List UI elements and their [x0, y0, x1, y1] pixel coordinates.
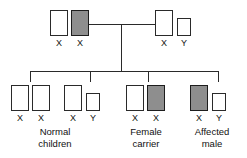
caption-normal-children-line1: Normal	[10, 126, 100, 138]
mother-chromosome-x2-shaded	[71, 10, 89, 36]
child-2-chromosome-y	[86, 93, 100, 111]
father-chromosome-x	[155, 10, 173, 36]
mother-allele-x2-label: X	[71, 38, 89, 48]
child-3-allele-x2-label: X	[147, 113, 165, 123]
child-4-allele-y-label: Y	[212, 113, 226, 123]
mother-allele-x1-label: X	[50, 38, 68, 48]
child-3-chromosome-x1	[126, 85, 144, 111]
child-4-chromosome-y	[212, 93, 226, 111]
child-2-allele-x-label: X	[64, 113, 82, 123]
sibship-drop-child-3	[148, 71, 149, 82]
child-2-chromosome-x	[64, 85, 82, 111]
child-1-allele-x1-label: X	[11, 113, 29, 123]
child-1-chromosome-x2	[32, 85, 50, 111]
child-1-allele-x2-label: X	[32, 113, 50, 123]
caption-affected-male: Affected male	[180, 126, 244, 149]
child-3-chromosome-x2-shaded	[147, 85, 165, 111]
child-1-chromosome-x1	[11, 85, 29, 111]
child-2-allele-y-label: Y	[86, 113, 100, 123]
sibship-drop-child-4	[218, 71, 219, 82]
child-4-chromosome-x-shaded	[190, 85, 208, 111]
child-3-allele-x1-label: X	[126, 113, 144, 123]
father-allele-x-label: X	[155, 38, 173, 48]
father-chromosome-y	[177, 18, 191, 36]
mother-chromosome-x1	[50, 10, 68, 36]
caption-normal-children-line2: children	[10, 138, 100, 150]
mating-line-left	[89, 24, 122, 25]
caption-affected-male-line1: Affected	[180, 126, 244, 138]
sibship-drop-child-2	[90, 71, 91, 82]
descent-line	[121, 24, 122, 72]
caption-affected-male-line2: male	[180, 138, 244, 150]
sibship-drop-child-1	[30, 71, 31, 82]
caption-female-carrier-line2: carrier	[114, 138, 178, 150]
mating-line-right	[121, 24, 156, 25]
caption-female-carrier-line1: Female	[114, 126, 178, 138]
caption-female-carrier: Female carrier	[114, 126, 178, 149]
sibship-line	[30, 71, 219, 72]
caption-normal-children: Normal children	[10, 126, 100, 149]
pedigree-diagram: X X X Y X X X Y X X X Y Normal children …	[0, 0, 247, 158]
child-4-allele-x-label: X	[190, 113, 208, 123]
father-allele-y-label: Y	[177, 38, 191, 48]
